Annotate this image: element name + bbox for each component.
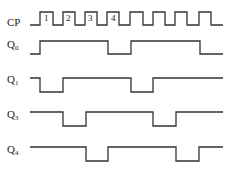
waveform-q3 [30, 112, 223, 126]
label-q0: Q0 [7, 39, 18, 54]
label-cp: CP [7, 17, 20, 28]
waveform-cp [30, 12, 223, 25]
pulse-number: 4 [111, 14, 116, 23]
pulse-number: 2 [66, 14, 71, 23]
waveform-q1 [30, 78, 223, 92]
label-q4: Q4 [7, 144, 18, 159]
waveform-q0 [30, 41, 223, 54]
timing-diagram [0, 0, 233, 174]
label-q3: Q3 [7, 109, 18, 124]
waveform-q4 [30, 147, 223, 161]
pulse-number: 1 [44, 14, 49, 23]
pulse-number: 3 [88, 14, 93, 23]
label-q1: Q1 [7, 74, 18, 89]
